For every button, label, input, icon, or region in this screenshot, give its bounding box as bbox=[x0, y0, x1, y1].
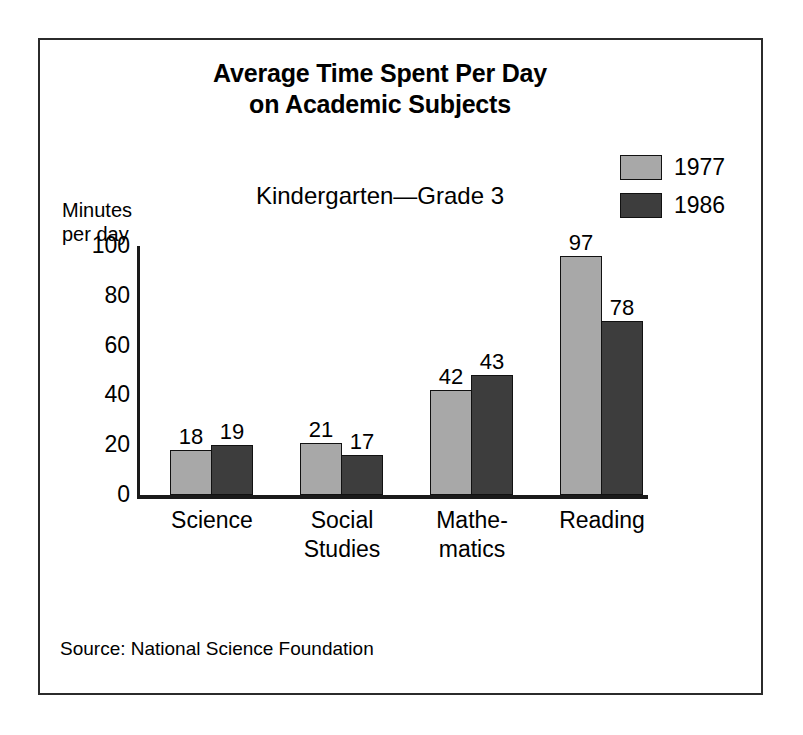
bar-value-label: 18 bbox=[179, 426, 203, 448]
bar-value-label: 17 bbox=[350, 431, 374, 453]
bar-group: 1819 bbox=[170, 40, 253, 697]
category-label-line-1: Social bbox=[277, 506, 407, 535]
category-label-line-2: Studies bbox=[277, 535, 407, 564]
bar-group: 4243 bbox=[430, 40, 513, 697]
category-label-line-1: Mathe- bbox=[407, 506, 537, 535]
bar-value-label: 43 bbox=[480, 351, 504, 373]
category-label: Reading bbox=[537, 506, 667, 535]
bar-1977-reading: 97 bbox=[560, 256, 602, 495]
bar-group: 2117 bbox=[300, 40, 383, 697]
category-label: SocialStudies bbox=[277, 506, 407, 564]
bar-1986-mathematics: 43 bbox=[471, 375, 513, 495]
bar-1977-social-studies: 21 bbox=[300, 443, 342, 495]
bar-value-label: 97 bbox=[569, 232, 593, 254]
y-axis-tick-labels: 100806040200 bbox=[58, 40, 130, 697]
y-tick-label: 40 bbox=[68, 383, 130, 406]
category-label-line-1: Science bbox=[147, 506, 277, 535]
y-tick-label: 100 bbox=[68, 234, 130, 257]
category-label-line-2: matics bbox=[407, 535, 537, 564]
source-note: Source: National Science Foundation bbox=[60, 638, 374, 660]
bar-1986-reading: 78 bbox=[601, 321, 643, 495]
bar-value-label: 19 bbox=[220, 421, 244, 443]
y-tick-label: 0 bbox=[68, 483, 130, 506]
category-label: Mathe-matics bbox=[407, 506, 537, 564]
category-label: Science bbox=[147, 506, 277, 535]
bar-value-label: 78 bbox=[610, 297, 634, 319]
bar-value-label: 42 bbox=[439, 366, 463, 388]
y-tick-label: 20 bbox=[68, 433, 130, 456]
bar-group: 9778 bbox=[560, 40, 643, 697]
chart-figure-frame: Average Time Spent Per Day on Academic S… bbox=[38, 38, 763, 695]
bars-layer: 1819211742439778 bbox=[140, 40, 660, 697]
category-label-line-1: Reading bbox=[537, 506, 667, 535]
bar-1977-mathematics: 42 bbox=[430, 390, 472, 495]
x-axis-category-labels: ScienceSocialStudiesMathe-maticsReading bbox=[140, 506, 660, 596]
bar-1977-science: 18 bbox=[170, 450, 212, 495]
y-tick-label: 80 bbox=[68, 284, 130, 307]
bar-value-label: 21 bbox=[309, 419, 333, 441]
y-tick-label: 60 bbox=[68, 334, 130, 357]
bar-1986-science: 19 bbox=[211, 445, 253, 495]
bar-1986-social-studies: 17 bbox=[341, 455, 383, 495]
plot-area: 100806040200 1819211742439778 ScienceSoc… bbox=[40, 40, 765, 697]
